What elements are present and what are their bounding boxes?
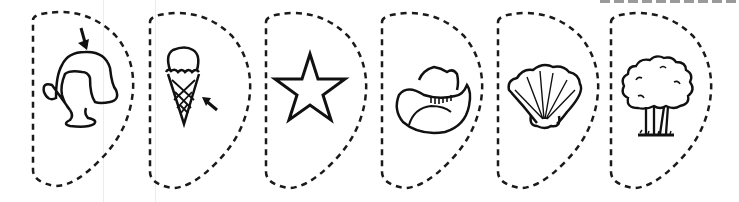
star-icon (263, 10, 373, 192)
hair-icon (30, 10, 140, 192)
cutout-piece-tree[interactable]: Tree (608, 10, 718, 192)
cutout-piece-hair[interactable]: Hair (30, 10, 140, 192)
ice-cream-icon (147, 10, 257, 192)
cutout-piece-ice-cream[interactable]: Ice cream cone (147, 10, 257, 192)
cutout-piece-seashell[interactable]: Seashell (495, 10, 605, 192)
worksheet: Hair Ice cream cone Star (0, 0, 739, 202)
cutout-piece-cowboy-hat[interactable]: Cowboy hat (379, 10, 489, 192)
cutout-piece-star[interactable]: Star (263, 10, 373, 192)
cowboy-hat-icon (379, 10, 489, 192)
tree-icon (608, 10, 718, 192)
cut-guide-dashes (600, 0, 739, 3)
seashell-icon (495, 10, 605, 192)
